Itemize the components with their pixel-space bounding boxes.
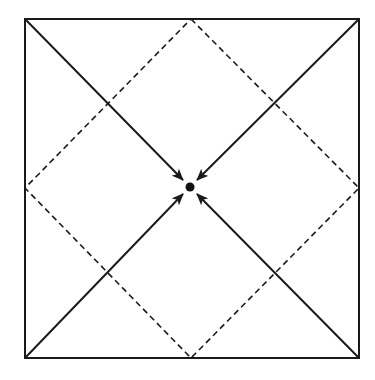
arrow-top-left: [25, 19, 183, 180]
arrow-bottom-right: [197, 194, 359, 358]
arrow-top-right: [197, 19, 359, 180]
arrow-bottom-left: [25, 194, 183, 358]
center-dot: [186, 183, 195, 192]
square-diagonal-diagram: [0, 0, 375, 380]
